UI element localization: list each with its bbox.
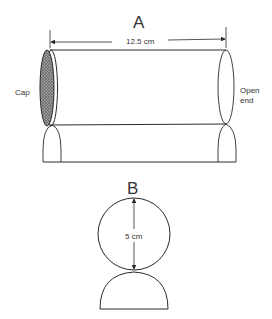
- figure-a-label: A: [133, 13, 145, 32]
- diameter-dimension: 5 cm: [125, 199, 143, 269]
- semicircle-stand: [100, 272, 168, 309]
- figure-b: B 5 cm: [98, 179, 170, 309]
- length-label: 12.5 cm: [126, 37, 155, 46]
- diagram-canvas: A 12.5 cm Cap Open end: [0, 0, 272, 319]
- cap-disc: [40, 50, 58, 126]
- cap-label: Cap: [15, 88, 30, 97]
- figure-b-label: B: [127, 179, 138, 198]
- diameter-label: 5 cm: [125, 232, 143, 241]
- open-end-label-line1: Open: [240, 86, 260, 95]
- figure-a: A 12.5 cm Cap Open end: [15, 13, 260, 162]
- open-end-ellipse: [218, 50, 234, 124]
- cylinder-stand: [43, 124, 236, 162]
- cylinder-tube: [50, 50, 234, 125]
- open-end-label-line2: end: [240, 96, 253, 105]
